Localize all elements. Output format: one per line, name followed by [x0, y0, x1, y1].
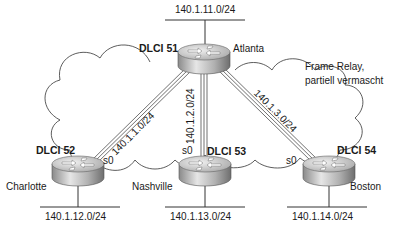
network-diagram: [0, 0, 393, 232]
lan-label-boston: 140.1.14.0/24: [292, 212, 353, 222]
interface-label-nashville: s0: [182, 146, 193, 156]
lan-label-nashville: 140.1.13.0/24: [170, 212, 231, 222]
router-name-charlotte: Charlotte: [6, 182, 47, 192]
lan-label-atlanta: 140.1.11.0/24: [175, 5, 235, 15]
router-name-boston: Boston: [350, 182, 381, 192]
router-nashville: [179, 156, 231, 186]
lan-label-charlotte: 140.1.12.0/24: [45, 212, 106, 222]
link-label-atlanta-nashville: 140.1.2.0/24: [186, 88, 196, 144]
interface-label-charlotte: s0: [103, 156, 114, 166]
dlci-label-charlotte: DLCI 52: [36, 145, 75, 156]
interface-label-boston: s0: [286, 156, 297, 166]
router-name-atlanta: Atlanta: [233, 44, 264, 54]
dlci-label-boston: DLCI 54: [337, 145, 376, 156]
cloud-label-line2: partiell vermascht: [305, 76, 383, 86]
dlci-label-atlanta: DLCI 51: [139, 43, 178, 54]
cloud-label-line1: Frame Relay,: [305, 62, 364, 72]
router-name-nashville: Nashville: [132, 182, 173, 192]
dlci-label-nashville: DLCI 53: [207, 146, 246, 157]
router-charlotte: [52, 156, 104, 186]
router-atlanta: [178, 44, 230, 74]
router-boston: [303, 156, 355, 186]
